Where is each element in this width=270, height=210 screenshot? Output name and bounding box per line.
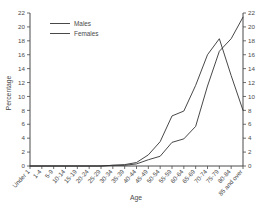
y-tick-label-right: 4 [248,134,252,141]
y-tick-label-right: 6 [248,120,252,127]
y-tick-labels-right: 0246810121416182022 [248,9,255,169]
line-chart: 0246810121416182022 0246810121416182022 … [0,0,270,210]
chart-title-clipped [0,0,270,7]
series-lines [30,17,243,166]
legend-label-females: Females [74,30,99,37]
legend-label-males: Males [74,20,91,27]
y-tick-label: 18 [18,37,25,44]
y-tick-label-right: 10 [248,93,255,100]
y-tick-label-right: 0 [248,162,252,169]
x-axis-title: Age [130,194,142,202]
y-tick-label: 6 [22,120,26,127]
series-line-females [30,17,243,166]
x-tick-label: 1-4 [31,168,43,180]
y-tick-labels-left: 0246810121416182022 [18,9,25,169]
y-tick-label-right: 16 [248,51,255,58]
chart-container: 0246810121416182022 0246810121416182022 … [0,0,270,210]
x-tick-labels: Under 11-45-910-1415-1920-2425-2930-3435… [11,168,244,197]
y-tick-label: 4 [22,134,26,141]
y-tick-label: 10 [18,93,25,100]
y-tick-label-right: 14 [248,65,255,72]
y-tick-label: 12 [18,79,25,86]
y-tick-label-right: 8 [248,107,252,114]
y-tick-label-right: 22 [248,9,255,16]
x-tick-label: Under 1 [11,168,31,189]
y-tick-label: 20 [18,23,25,30]
y-tick-label: 16 [18,51,25,58]
axes-group [30,13,243,166]
y-tick-label-right: 12 [248,79,255,86]
y-tick-label-right: 20 [248,23,255,30]
y-tick-label-right: 2 [248,148,252,155]
y-tick-label: 2 [22,148,26,155]
legend: Males Females [50,20,99,37]
y-tick-label: 14 [18,65,25,72]
y-tick-label-right: 18 [248,37,255,44]
y-tick-label: 8 [22,107,26,114]
y-axis-title: Percentage [5,75,13,110]
series-line-males [30,39,243,166]
y-tick-label: 22 [18,9,25,16]
